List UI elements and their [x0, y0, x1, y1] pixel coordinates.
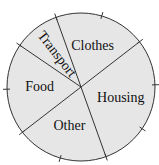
slice-label-other: Other — [53, 118, 85, 133]
pie-chart: ClothesTransportFoodOtherHousing — [0, 0, 159, 165]
slice-label-clothes: Clothes — [71, 38, 114, 53]
slice-label-housing: Housing — [97, 90, 144, 105]
slice-label-food: Food — [25, 79, 54, 94]
